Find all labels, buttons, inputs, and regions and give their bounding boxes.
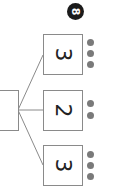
root-box[interactable] bbox=[0, 90, 19, 131]
counter-dot bbox=[87, 112, 94, 119]
counter-dot bbox=[87, 173, 94, 180]
part-value-1: 3 bbox=[44, 36, 83, 74]
whole-number-badge: 8 bbox=[67, 3, 84, 20]
part-value-3: 3 bbox=[44, 147, 83, 185]
whole-number-label: 8 bbox=[69, 8, 82, 16]
root-box-value bbox=[0, 102, 29, 120]
part-value-2: 2 bbox=[44, 92, 83, 130]
part-box-1[interactable]: 3 bbox=[43, 34, 83, 75]
counter-dot bbox=[87, 162, 94, 169]
counter-dot bbox=[87, 151, 94, 158]
counter-dot bbox=[87, 50, 94, 57]
counter-dot bbox=[87, 39, 94, 46]
counter-dot bbox=[87, 100, 94, 107]
number-bond-diagram: 8 3 2 3 bbox=[0, 0, 115, 187]
part-box-2[interactable]: 2 bbox=[43, 90, 83, 131]
part-box-3[interactable]: 3 bbox=[43, 145, 83, 186]
counter-dot bbox=[87, 61, 94, 68]
